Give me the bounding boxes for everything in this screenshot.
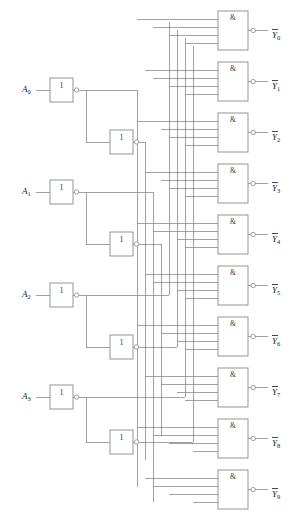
and-gate-y0[interactable]: & — [212, 11, 268, 50]
circuit-schematic: &&&&&&&&&&11111111 A0A1A2A3Y0Y1Y2Y3Y4Y5Y… — [0, 0, 301, 524]
output-label-text: Y6 — [272, 336, 281, 347]
output-label-y8: Y8 — [272, 438, 281, 449]
output-inversion-bubble — [251, 487, 255, 491]
output-label-y4: Y4 — [272, 234, 282, 245]
and-gate-y5[interactable]: & — [212, 266, 268, 305]
and-gate-symbol: & — [230, 115, 236, 124]
input-label-a1: A1 — [21, 186, 31, 197]
inverter-bubble — [134, 345, 138, 349]
and-gate-y1[interactable]: & — [212, 62, 268, 101]
logic-diagram-canvas: &&&&&&&&&&11111111 A0A1A2A3Y0Y1Y2Y3Y4Y5Y… — [0, 0, 301, 524]
and-gate-y2[interactable]: & — [212, 113, 268, 152]
inverter-bubble — [74, 88, 78, 92]
input-label-a3: A3 — [21, 391, 31, 402]
inverter-symbol: 1 — [120, 338, 124, 347]
inv1-tap-to-inv2-a2 — [86, 295, 110, 347]
output-label-text: Y2 — [272, 132, 280, 143]
inverter-bubble — [74, 395, 78, 399]
output-label-text: Y8 — [272, 438, 280, 449]
inv1-tap-to-inv2-a0 — [86, 90, 110, 142]
output-inversion-bubble — [251, 436, 255, 440]
inverter-symbol: 1 — [60, 183, 64, 192]
inverter-bubble — [74, 190, 78, 194]
inverter-inv-a1-1[interactable]: 1 — [50, 180, 79, 204]
inverter-inv-a0-2[interactable]: 1 — [110, 130, 139, 154]
output-label-y7: Y7 — [272, 387, 282, 398]
output-label-y9: Y9 — [272, 489, 281, 500]
and-gate-symbol: & — [230, 64, 236, 73]
output-inversion-bubble — [251, 79, 255, 83]
output-label-y5: Y5 — [272, 285, 281, 296]
and-gate-y4[interactable]: & — [212, 215, 268, 254]
inverter-inv-a2-2[interactable]: 1 — [110, 335, 139, 359]
and-gate-y6[interactable]: & — [212, 317, 268, 356]
inverter-inv-a1-2[interactable]: 1 — [110, 232, 139, 256]
output-label-y3: Y3 — [272, 183, 281, 194]
input-label-a0: A0 — [21, 84, 31, 95]
and-gate-symbol: & — [230, 13, 236, 22]
inverter-inv-a0-1[interactable]: 1 — [50, 78, 79, 102]
and-gate-y3[interactable]: & — [212, 164, 268, 203]
and-gate-symbol: & — [230, 268, 236, 277]
output-label-text: Y5 — [272, 285, 280, 296]
output-inversion-bubble — [251, 28, 255, 32]
inverter-bubble — [74, 293, 78, 297]
output-inversion-bubble — [251, 334, 255, 338]
and-gate-y9[interactable]: & — [212, 470, 268, 509]
and-gate-symbol: & — [230, 421, 236, 430]
output-label-y2: Y2 — [272, 132, 281, 143]
inverter-symbol: 1 — [60, 388, 64, 397]
inverter-inv-a3-1[interactable]: 1 — [50, 385, 79, 409]
inverter-symbol: 1 — [120, 235, 124, 244]
and-gate-symbol: & — [230, 166, 236, 175]
output-inversion-bubble — [251, 385, 255, 389]
inverter-inv-a2-1[interactable]: 1 — [50, 283, 79, 307]
and-gate-y7[interactable]: & — [212, 368, 268, 407]
inverter-symbol: 1 — [120, 133, 124, 142]
output-inversion-bubble — [251, 283, 255, 287]
output-label-text: Y0 — [272, 30, 280, 41]
and-gate-symbol: & — [230, 472, 236, 481]
gate-layer: &&&&&&&&&&11111111 — [50, 11, 268, 509]
output-inversion-bubble — [251, 232, 255, 236]
output-label-y1: Y1 — [272, 81, 281, 92]
and-gate-symbol: & — [230, 217, 236, 226]
inverter-symbol: 1 — [120, 433, 124, 442]
inverter-symbol: 1 — [60, 286, 64, 295]
inverter-bubble — [134, 140, 138, 144]
output-label-y6: Y6 — [272, 336, 282, 347]
inverter-bubble — [134, 440, 138, 444]
inverter-symbol: 1 — [60, 81, 64, 90]
output-label-text: Y1 — [272, 81, 280, 92]
inv1-tap-to-inv2-a1 — [86, 192, 110, 244]
output-label-text: Y9 — [272, 489, 280, 500]
output-label-text: Y3 — [272, 183, 280, 194]
output-label-text: Y7 — [272, 387, 281, 398]
output-inversion-bubble — [251, 181, 255, 185]
and-gate-symbol: & — [230, 319, 236, 328]
and-gate-y8[interactable]: & — [212, 419, 268, 458]
inv1-tap-to-inv2-a3 — [86, 397, 110, 442]
output-label-y0: Y0 — [272, 30, 281, 41]
input-label-a2: A2 — [21, 289, 31, 300]
output-label-text: Y4 — [272, 234, 281, 245]
output-inversion-bubble — [251, 130, 255, 134]
and-gate-symbol: & — [230, 370, 236, 379]
inverter-inv-a3-2[interactable]: 1 — [110, 430, 139, 454]
inverter-bubble — [134, 242, 138, 246]
